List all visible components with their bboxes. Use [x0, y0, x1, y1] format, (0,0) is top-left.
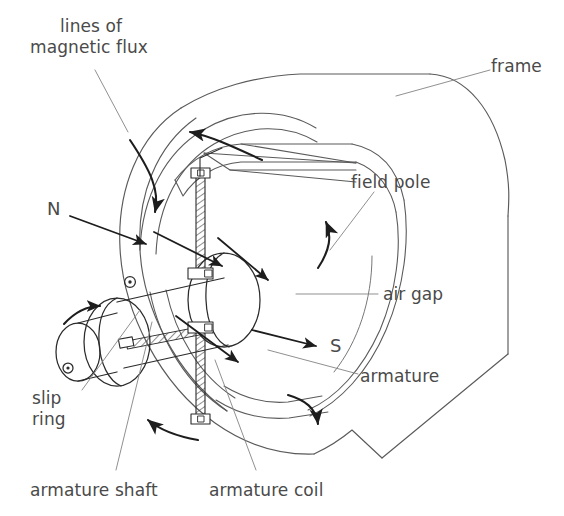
label-air-gap: air gap — [383, 284, 443, 305]
frame-outline — [120, 74, 509, 458]
coil-arrow-mid — [218, 238, 268, 280]
label-pole-south: S — [330, 335, 342, 356]
slip-ring-center-dot-icon — [66, 366, 69, 369]
label-frame: frame — [491, 56, 542, 77]
coil-arrow-upper — [154, 232, 222, 266]
label-slip-ring-line2: ring — [32, 409, 66, 430]
label-lines-of-flux-line2: magnetic flux — [30, 37, 148, 58]
label-pole-north: N — [47, 198, 61, 219]
north-arrow — [70, 216, 146, 244]
label-lines-of-flux-line1: lines of — [60, 16, 122, 37]
label-armature: armature — [360, 366, 439, 387]
label-field-pole: field pole — [351, 172, 430, 193]
field-direction-arrows — [70, 216, 316, 362]
field-pole-faces — [204, 153, 356, 182]
label-armature-shaft: armature shaft — [30, 480, 158, 501]
label-slip-ring-line1: slip — [32, 388, 62, 409]
flux-arrow-right-up — [318, 222, 329, 268]
shaft-center-dot-icon — [128, 280, 131, 283]
diagram-canvas: lines of magnetic flux frame field pole … — [0, 0, 564, 516]
generator-cutaway-drawing — [0, 0, 564, 516]
leader-armature — [268, 350, 358, 374]
south-arrow — [252, 330, 316, 346]
leader-lines-of-flux — [95, 70, 128, 132]
leader-field-pole — [330, 192, 374, 250]
label-armature-coil: armature coil — [209, 480, 324, 501]
